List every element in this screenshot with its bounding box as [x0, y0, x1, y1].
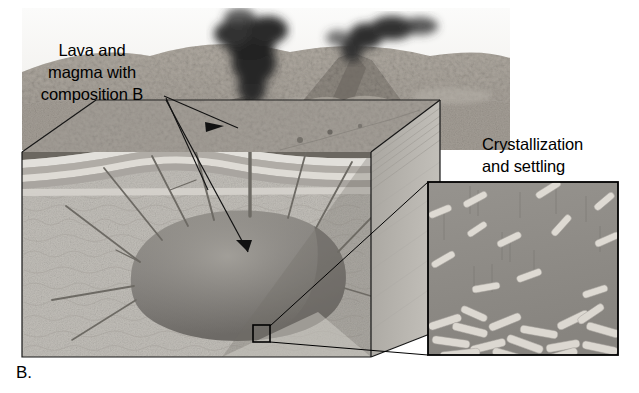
crystallization-inset	[428, 179, 621, 365]
label-crystallization-and-settling: Crystallization and settling	[482, 134, 632, 178]
block-front-face	[22, 133, 376, 357]
label-lava-magma-composition-b: Lava and magma with composition B	[18, 40, 166, 105]
panel-letter-b: B.	[16, 362, 32, 384]
figure-canvas: Lava and magma with composition B Crysta…	[0, 0, 639, 393]
